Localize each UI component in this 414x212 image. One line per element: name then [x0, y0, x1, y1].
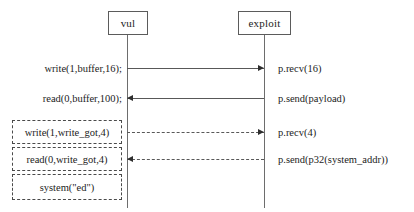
- arrow-head-left-4: [127, 156, 133, 162]
- participant-label-exploit: exploit: [249, 17, 281, 29]
- message-label-right-1: p.recv(16): [278, 64, 321, 75]
- participant-label-vul: vul: [121, 17, 136, 29]
- lifeline-exploit: [264, 35, 265, 208]
- framed-step-box-3: write(1,write_got,4): [12, 120, 122, 144]
- message-label-right-3: p.recv(4): [278, 128, 316, 139]
- message-label-right-4: p.send(p32(system_addr)): [278, 155, 388, 166]
- message-label-left-2: read(0,buffer,100);: [43, 94, 122, 105]
- framed-step-box-4: read(0,write_got,4): [12, 147, 122, 171]
- sequence-diagram: vul exploit write(1,buffer,16); p.recv(1…: [0, 0, 414, 212]
- message-arrow-1: [127, 68, 264, 69]
- participant-box-vul: vul: [108, 11, 148, 35]
- message-label-left-4: read(0,write_got,4): [26, 154, 107, 165]
- arrow-head-right-1: [258, 65, 264, 71]
- message-arrow-3: [127, 132, 264, 133]
- message-arrow-2: [127, 98, 264, 99]
- message-label-right-2: p.send(payload): [278, 94, 345, 105]
- arrow-head-left-2: [127, 95, 133, 101]
- participant-box-exploit: exploit: [238, 11, 291, 35]
- message-label-left-1: write(1,buffer,16);: [44, 64, 122, 75]
- framed-step-box-5: system("ed"): [12, 174, 122, 200]
- message-arrow-4: [127, 159, 264, 160]
- message-label-left-5: system("ed"): [40, 182, 95, 193]
- message-label-left-3: write(1,write_got,4): [25, 127, 110, 138]
- lifeline-vul: [127, 35, 128, 208]
- arrow-head-right-3: [258, 129, 264, 135]
